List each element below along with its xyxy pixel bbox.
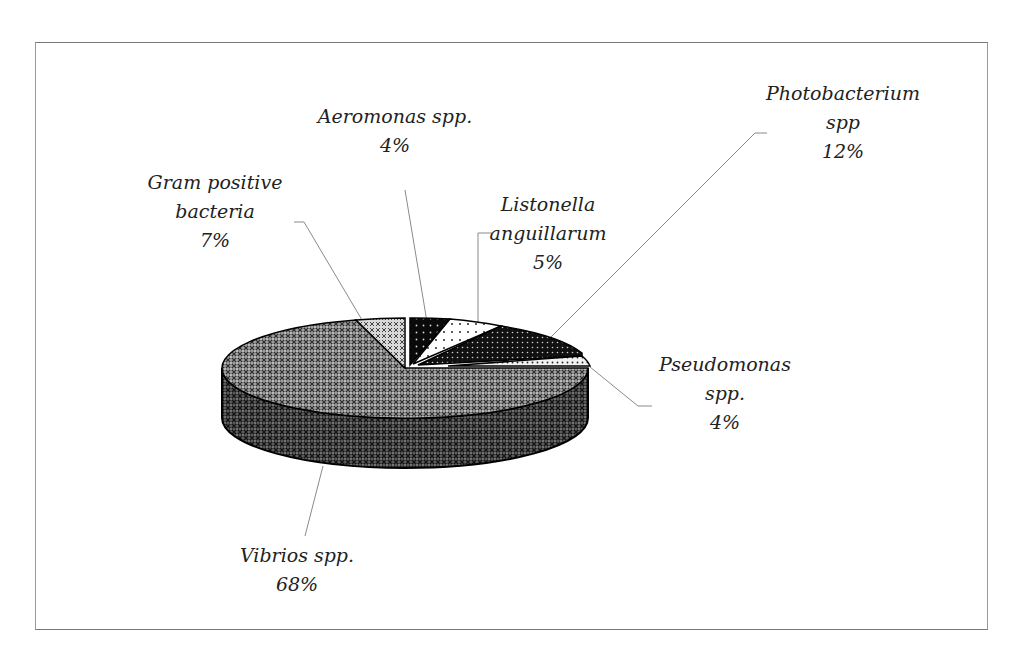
label-pseudomonas-line1: Pseudomonas [650,350,800,379]
label-gram-line1: Gram positive [135,168,295,197]
label-vibrios-name: Vibrios spp. [222,541,372,570]
label-photobacterium-line2: spp [758,108,928,137]
label-photobacterium-pct: 12% [758,137,928,166]
label-listonella-line2: anguillarum [478,219,618,248]
label-gram-line2: bacteria [135,197,295,226]
label-pseudomonas: Pseudomonas spp. 4% [650,350,800,437]
label-aeromonas-pct: 4% [315,131,475,160]
label-listonella: Listonella anguillarum 5% [478,190,618,277]
label-gram-pct: 7% [135,226,295,255]
label-photobacterium: Photobacterium spp 12% [758,79,928,166]
label-vibrios: Vibrios spp. 68% [222,541,372,599]
label-vibrios-pct: 68% [222,570,372,599]
label-pseudomonas-line2: spp. [650,379,800,408]
label-pseudomonas-pct: 4% [650,408,800,437]
label-listonella-pct: 5% [478,248,618,277]
label-photobacterium-line1: Photobacterium [758,79,928,108]
label-aeromonas-name: Aeromonas spp. [315,102,475,131]
label-listonella-line1: Listonella [478,190,618,219]
label-gram-positive: Gram positive bacteria 7% [135,168,295,255]
label-aeromonas: Aeromonas spp. 4% [315,102,475,160]
